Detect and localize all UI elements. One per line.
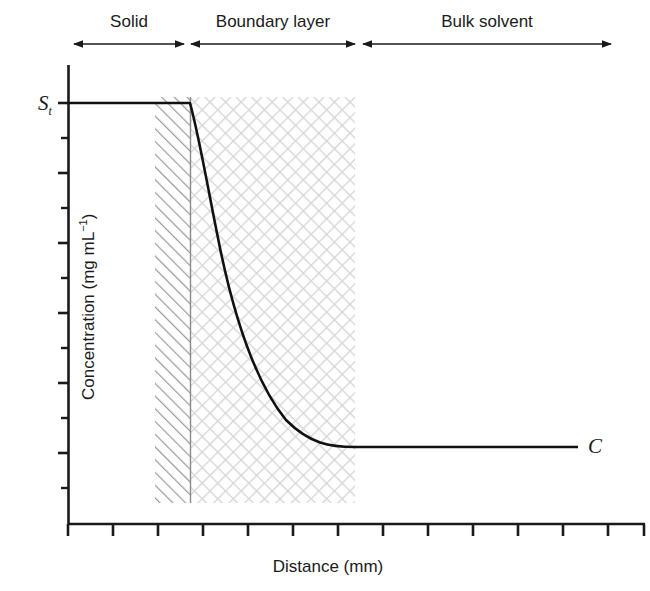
y-axis-title: Concentration (mg mL−1) — [77, 147, 99, 467]
y-axis-title-suffix: ) — [79, 214, 98, 220]
y-axis-title-exponent: −1 — [77, 219, 89, 232]
saturation-concentration-label: St — [38, 93, 52, 117]
region-label-bulk-solvent: Bulk solvent — [362, 13, 612, 30]
x-axis-ticks — [68, 524, 644, 536]
solid-region-hatch — [155, 97, 190, 503]
bulk-concentration-label: C — [588, 436, 602, 457]
y-axis-title-prefix: Concentration (mg mL — [79, 232, 98, 400]
boundary-layer-region-hatch — [190, 97, 355, 503]
region-label-boundary-layer: Boundary layer — [190, 13, 356, 30]
saturation-symbol: S — [38, 91, 49, 115]
region-label-solid: Solid — [73, 13, 185, 30]
saturation-subscript: t — [49, 104, 52, 118]
shaded-regions — [155, 97, 355, 503]
y-axis-ticks — [58, 103, 68, 488]
x-axis-title: Distance (mm) — [248, 557, 408, 577]
